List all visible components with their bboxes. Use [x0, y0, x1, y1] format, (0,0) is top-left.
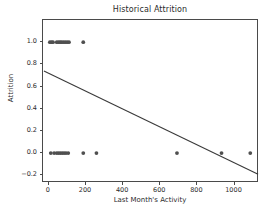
plot-svg [43, 20, 259, 183]
x-tick-label: 0 [46, 186, 50, 194]
y-tick-mark [40, 108, 43, 109]
x-tick-mark [122, 182, 123, 185]
y-tick-mark [40, 130, 43, 131]
x-tick-mark [48, 182, 49, 185]
regression-line [44, 71, 258, 174]
scatter-point [51, 40, 55, 44]
scatter-point [66, 151, 70, 155]
scatter-point [248, 151, 252, 155]
scatter-points [48, 40, 252, 155]
y-axis-label: Attrition [7, 58, 15, 118]
y-tick-mark [40, 41, 43, 42]
x-tick-label: 200 [79, 186, 91, 194]
x-tick-mark [159, 182, 160, 185]
scatter-point [81, 151, 85, 155]
x-tick-label: 400 [116, 186, 128, 194]
chart-title: Historical Attrition [42, 5, 258, 14]
scatter-point [49, 151, 53, 155]
x-tick-label: 1000 [225, 186, 242, 194]
y-tick-mark [40, 174, 43, 175]
x-tick-mark [85, 182, 86, 185]
scatter-point [81, 40, 85, 44]
x-tick-mark [196, 182, 197, 185]
x-tick-label: 600 [153, 186, 165, 194]
y-tick-mark [40, 86, 43, 87]
y-tick-label: 1.0 [2, 37, 37, 45]
trendline [44, 71, 258, 174]
plot-area [42, 19, 258, 182]
y-tick-label: 0.2 [2, 126, 37, 134]
scatter-point [67, 40, 71, 44]
scatter-point [220, 151, 224, 155]
x-tick-mark [234, 182, 235, 185]
chart-figure: Historical Attrition −0.20.00.20.40.60.8… [0, 0, 275, 218]
y-tick-mark [40, 63, 43, 64]
x-tick-label: 800 [190, 186, 202, 194]
x-axis-label: Last Month's Activity [42, 196, 258, 204]
y-tick-mark [40, 152, 43, 153]
y-tick-label: 0.0 [2, 148, 37, 156]
y-tick-label: −0.2 [2, 170, 37, 178]
scatter-point [175, 151, 179, 155]
scatter-point [95, 151, 99, 155]
